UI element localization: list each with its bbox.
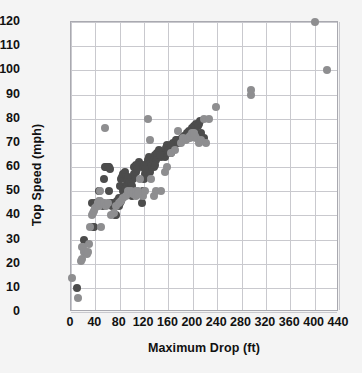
y-axis-tick-label: 50 (0, 183, 20, 197)
plot-area (70, 21, 338, 311)
y-axis-tick-label: 20 (0, 256, 20, 270)
y-axis-tick-label: 60 (0, 159, 20, 173)
data-point (147, 175, 155, 183)
y-axis-tick-label: 70 (0, 135, 20, 149)
data-point (163, 163, 171, 171)
gridline-vertical (339, 22, 340, 310)
gridline-vertical (290, 22, 291, 310)
data-point (96, 187, 104, 195)
scatter-chart-figure: Top Speed (mph) Maximum Drop (ft) 010203… (0, 0, 362, 373)
data-point (156, 151, 164, 159)
data-point (144, 115, 152, 123)
data-point (110, 209, 118, 217)
gridline-horizontal (71, 22, 337, 23)
gridline-vertical (315, 22, 316, 310)
gridline-vertical (242, 22, 243, 310)
gridline-vertical (217, 22, 218, 310)
y-axis-tick-label: 10 (0, 280, 20, 294)
x-axis-tick-label: 440 (321, 315, 355, 329)
data-point (68, 274, 76, 282)
y-axis-title: Top Speed (mph) (30, 80, 44, 270)
data-point (138, 199, 146, 207)
data-point (134, 190, 142, 198)
data-point (136, 175, 144, 183)
gridline-horizontal (71, 46, 337, 47)
gridline-vertical (95, 22, 96, 310)
x-axis-title: Maximum Drop (ft) (70, 341, 338, 355)
data-point (84, 248, 92, 256)
gridline-horizontal (71, 240, 337, 241)
data-point (171, 146, 179, 154)
data-point (141, 187, 149, 195)
data-point (85, 240, 93, 248)
y-axis-tick-label: 40 (0, 207, 20, 221)
data-point (146, 136, 154, 144)
data-point (104, 199, 112, 207)
data-point (190, 129, 198, 137)
y-axis-tick-label: 80 (0, 111, 20, 125)
y-axis-tick-label: 110 (0, 38, 20, 52)
y-axis-tick-label: 100 (0, 62, 20, 76)
y-axis-tick-label: 90 (0, 87, 20, 101)
data-point (86, 223, 94, 231)
data-point (323, 66, 331, 74)
data-point (157, 187, 165, 195)
data-point (205, 115, 213, 123)
y-axis-tick-label: 30 (0, 232, 20, 246)
data-point (212, 103, 220, 111)
data-point (73, 284, 81, 292)
data-point (105, 187, 113, 195)
data-point (151, 161, 159, 169)
data-point (311, 18, 319, 26)
data-point (106, 165, 114, 173)
gridline-horizontal (71, 264, 337, 265)
data-point (247, 86, 255, 94)
gridline-horizontal (71, 70, 337, 71)
gridline-horizontal (71, 288, 337, 289)
gridline-vertical (120, 22, 121, 310)
data-point (202, 139, 210, 147)
data-point (74, 294, 82, 302)
gridline-horizontal (71, 95, 337, 96)
y-axis-tick-label: 0 (0, 304, 20, 318)
data-point (100, 175, 108, 183)
data-point (97, 223, 105, 231)
gridline-vertical (193, 22, 194, 310)
y-axis-tick-label: 120 (0, 14, 20, 28)
gridline-horizontal (71, 312, 337, 313)
data-point (101, 124, 109, 132)
gridline-vertical (71, 22, 72, 310)
data-point (141, 165, 149, 173)
gridline-vertical (266, 22, 267, 310)
